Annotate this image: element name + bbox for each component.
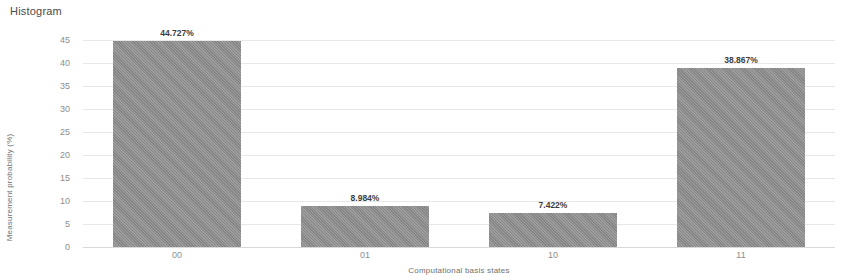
y-axis-tick-label: 5 <box>65 219 70 229</box>
histogram-figure: Histogram Measurement probability (%) 45… <box>0 0 843 280</box>
y-axis-title: Measurement probability (%) <box>5 103 14 273</box>
bar-value-label: 38.867% <box>724 55 758 65</box>
bar-value-label: 7.422% <box>539 200 568 210</box>
bar[interactable] <box>113 41 241 247</box>
bar-value-label: 8.984% <box>351 193 380 203</box>
bar-group[interactable]: 7.422% <box>489 40 617 247</box>
x-axis: 00011011 <box>83 250 835 266</box>
y-axis-tick-label: 30 <box>60 104 70 114</box>
bar[interactable] <box>301 206 429 247</box>
bar-group[interactable]: 8.984% <box>301 40 429 247</box>
bar[interactable] <box>677 68 805 247</box>
y-axis-tick-label: 20 <box>60 150 70 160</box>
y-axis-tick-label: 35 <box>60 81 70 91</box>
y-axis: Measurement probability (%) 454035302520… <box>0 40 78 247</box>
y-axis-tick-label: 15 <box>60 173 70 183</box>
plot-area: 44.727%8.984%7.422%38.867% <box>83 40 835 247</box>
bar[interactable] <box>489 213 617 247</box>
gridline <box>83 247 835 248</box>
x-axis-tick-label: 11 <box>736 250 745 260</box>
x-axis-tick-label: 10 <box>548 250 558 260</box>
y-axis-tick-label: 10 <box>60 196 70 206</box>
x-axis-tick-label: 01 <box>360 250 370 260</box>
y-axis-tick-label: 25 <box>60 127 70 137</box>
bar-group[interactable]: 44.727% <box>113 40 241 247</box>
y-axis-tick-label: 45 <box>60 35 70 45</box>
y-axis-tick-label: 0 <box>65 242 70 252</box>
bar-group[interactable]: 38.867% <box>677 40 805 247</box>
x-axis-tick-label: 00 <box>172 250 182 260</box>
x-axis-title: Computational basis states <box>83 266 835 275</box>
bar-value-label: 44.727% <box>160 28 194 38</box>
y-axis-tick-label: 40 <box>60 58 70 68</box>
page-title: Histogram <box>10 5 62 17</box>
